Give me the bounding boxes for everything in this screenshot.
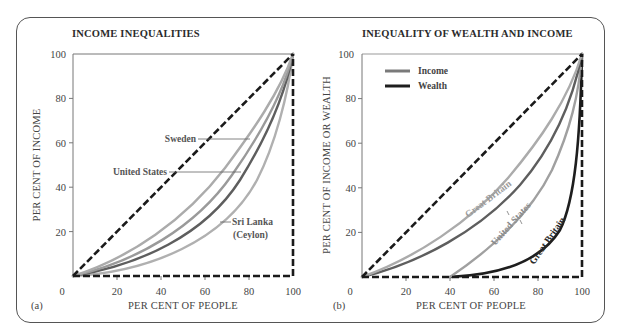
x-tick-label: 20 <box>401 286 412 297</box>
y-ticks: 100 80 60 40 20 <box>50 49 73 238</box>
x-tick-label: 40 <box>445 286 456 297</box>
panel-tag: (a) <box>31 300 43 312</box>
x-tick-label: 20 <box>112 286 123 297</box>
origin-label: 0 <box>59 286 64 297</box>
y-tick-label: 20 <box>56 227 67 238</box>
label-united-states: United States <box>489 200 533 247</box>
y-ticks: 100 80 60 40 20 <box>338 49 362 238</box>
label-sri-lanka: Sri Lanka <box>232 217 273 227</box>
chart-wealth-and-income: INEQUALITY OF WEALTH AND INCOME 100 80 6… <box>321 28 590 312</box>
y-axis-label: PER CENT OF INCOME OR WEALTH <box>321 76 332 254</box>
y-tick-label: 80 <box>56 93 67 104</box>
leader-united-states-a <box>507 211 509 215</box>
y-tick-label: 100 <box>338 49 354 60</box>
x-tick-label: 60 <box>489 286 500 297</box>
y-tick-label: 60 <box>346 138 357 149</box>
label-ceylon: (Ceylon) <box>233 230 268 241</box>
y-tick-label: 40 <box>56 182 67 193</box>
y-tick-label: 80 <box>346 93 357 104</box>
x-axis-label: PER CENT OF PEOPLE <box>416 300 526 311</box>
x-ticks: 0 20 40 60 80 100 <box>59 276 301 297</box>
legend: Income Wealth <box>385 66 448 91</box>
x-tick-label: 80 <box>533 286 544 297</box>
curve-united-states-wealth <box>450 54 582 277</box>
x-tick-label: 100 <box>574 286 590 297</box>
legend-income-label: Income <box>418 66 448 76</box>
y-tick-label: 100 <box>50 49 66 60</box>
x-axis-label: PER CENT OF PEOPLE <box>128 300 238 311</box>
label-sweden: Sweden <box>165 134 197 144</box>
label-united-states: United States <box>113 167 167 177</box>
leader-united-states-b <box>520 220 522 224</box>
x-ticks: 0 20 40 60 80 100 <box>347 277 590 297</box>
chart-title: INCOME INEQUALITIES <box>72 28 200 39</box>
x-tick-label: 60 <box>200 286 211 297</box>
curve-great-britain-wealth <box>450 54 582 277</box>
y-tick-label: 40 <box>346 183 357 194</box>
chart-title: INEQUALITY OF WEALTH AND INCOME <box>362 28 573 39</box>
x-tick-label: 40 <box>156 286 167 297</box>
figure: INCOME INEQUALITIES 100 80 60 40 20 0 20 <box>0 0 619 336</box>
x-tick-label: 100 <box>285 286 301 297</box>
y-tick-label: 60 <box>56 138 67 149</box>
x-tick-label: 80 <box>244 286 255 297</box>
legend-wealth-label: Wealth <box>418 81 448 91</box>
panel-tag: (b) <box>333 300 346 312</box>
y-tick-label: 20 <box>346 227 357 238</box>
y-axis-label: PER CENT OF INCOME <box>31 109 42 222</box>
chart-income-inequalities: INCOME INEQUALITIES 100 80 60 40 20 0 20 <box>31 28 301 312</box>
equality-line <box>73 54 293 276</box>
origin-label: 0 <box>347 286 352 297</box>
label-great-britain-wealth: Great Britain <box>527 215 567 266</box>
